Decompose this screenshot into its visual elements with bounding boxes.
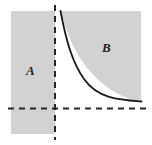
region-diagram-figure: A B: [0, 0, 152, 145]
diagram-canvas: [0, 0, 152, 145]
region-b-label: B: [102, 41, 111, 54]
region-a-label: A: [26, 64, 35, 77]
